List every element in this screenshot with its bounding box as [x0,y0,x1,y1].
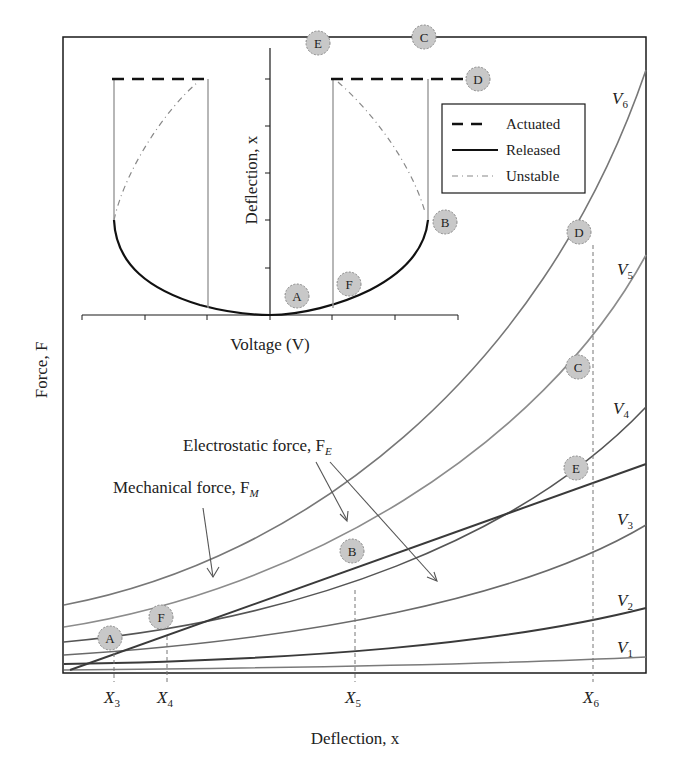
inset-released-curve [114,220,428,315]
inset-chart: E C D B A F Voltage (V) Deflection, x [82,25,585,354]
inset-y-ticks [265,79,270,268]
svg-text:E: E [572,461,580,476]
main-point-a: A [98,626,122,650]
svg-text:A: A [105,631,115,646]
svg-text:D: D [473,72,482,87]
main-point-d: D [567,220,591,244]
inset-point-a: A [285,284,309,308]
svg-text:C: C [420,30,429,45]
inset-unstable-curve-right [338,82,425,212]
legend-released: Released [506,142,561,158]
curve-v5 [64,255,646,627]
svg-text:B: B [441,215,450,230]
inset-point-b: B [433,210,457,234]
x-tick-labels: X3 X4 X5 X6 [103,688,599,709]
legend-actuated: Actuated [506,116,561,132]
electrostatic-force-label: Electrostatic force, FE [183,436,332,457]
inset-point-d: D [466,67,490,91]
svg-text:F: F [345,277,352,292]
svg-text:A: A [292,289,302,304]
figure: E C D B A F Voltage (V) Deflection, x [0,0,681,770]
inset-transition-lines [114,79,428,308]
inset-point-c: C [412,25,436,49]
label-v5: V5 [617,260,633,281]
main-x-label: Deflection, x [311,729,400,748]
curve-labels: V1 V2 V3 V4 V5 V6 [612,89,633,659]
inset-x-label: Voltage (V) [230,335,309,354]
inset-y-label: Deflection, x [242,135,261,224]
svg-text:C: C [574,360,583,375]
legend-unstable: Unstable [506,168,560,184]
svg-text:B: B [348,544,357,559]
x-tick-x6: X6 [582,688,599,709]
label-v4: V4 [613,399,629,420]
label-v2: V2 [617,591,633,612]
x-tick-x3: X3 [103,688,120,709]
svg-text:D: D [574,225,583,240]
label-v1: V1 [617,638,633,659]
x-tick-x4: X4 [156,688,173,709]
x-tick-x5: X5 [344,688,361,709]
mechanical-force-label: Mechanical force, FM [113,478,259,499]
main-y-label: Force, F [32,342,51,399]
main-point-f: F [149,605,173,629]
main-point-e: E [564,456,588,480]
inset-point-f: F [337,272,361,296]
main-point-c: C [566,355,590,379]
inset-unstable-curve-left [114,82,198,220]
label-v3: V3 [617,510,633,531]
inset-legend: Actuated Released Unstable [442,104,585,193]
label-v6: V6 [612,89,628,110]
svg-text:F: F [157,610,164,625]
main-point-b: B [340,539,364,563]
inset-point-e: E [306,31,330,55]
svg-text:E: E [314,36,322,51]
